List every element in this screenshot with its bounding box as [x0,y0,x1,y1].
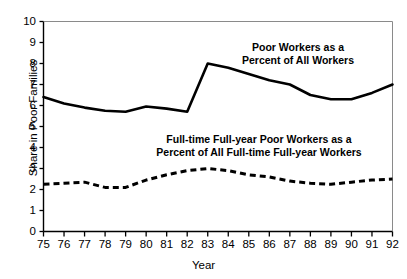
x-tick-label: 91 [362,238,382,250]
x-tick-label: 88 [300,238,320,250]
x-tick-label: 87 [280,238,300,250]
x-tick-label: 85 [239,238,259,250]
x-tick-label: 79 [116,238,136,250]
annotation-poor-workers-line1: Poor Workers as a [218,41,378,54]
annotation-fulltime-fullyear-line2: Percent of All Full-time Full-year Worke… [120,146,398,159]
annotation-poor-workers-line2: Percent of All Workers [218,54,378,67]
y-axis-title: Share in Poor Families [27,23,39,213]
annotation-poor-workers: Poor Workers as a Percent of All Workers [218,41,378,67]
x-tick-label: 82 [177,238,197,250]
x-tick-label: 80 [136,238,156,250]
x-tick-label: 77 [75,238,95,250]
x-axis-title: Year [0,259,407,271]
annotation-fulltime-fullyear: Full-time Full-year Poor Workers as a Pe… [120,133,398,159]
x-tick-label: 89 [321,238,341,250]
x-tick-label: 75 [34,238,54,250]
x-tick-label: 90 [341,238,361,250]
x-tick-label: 76 [54,238,74,250]
x-tick-label: 92 [383,238,403,250]
chart-figure: 012345678910 757677787980818283848586878… [0,0,407,279]
x-tick-label: 83 [198,238,218,250]
x-tick-label: 86 [259,238,279,250]
x-tick-label: 78 [95,238,115,250]
x-tick-label: 84 [218,238,238,250]
annotation-fulltime-fullyear-line1: Full-time Full-year Poor Workers as a [120,133,398,146]
x-tick-label: 81 [157,238,177,250]
